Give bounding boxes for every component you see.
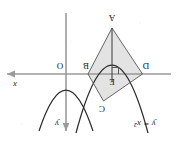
y-axis-label: y — [55, 119, 60, 129]
point-label-D: D — [142, 61, 149, 71]
figure-canvas: D E B O C A x y y = x² — [0, 0, 179, 141]
x-axis-label: x — [13, 80, 18, 90]
point-label-B: B — [83, 61, 89, 71]
curve-equation-label: y = x² — [134, 119, 157, 129]
point-label-C: C — [99, 104, 105, 114]
point-label-A: A — [108, 13, 115, 23]
math-diagram-svg: D E B O C A x y y = x² — [0, 0, 179, 141]
point-label-O: O — [56, 61, 63, 71]
point-label-E: E — [109, 77, 115, 87]
y-axis — [63, 13, 70, 131]
